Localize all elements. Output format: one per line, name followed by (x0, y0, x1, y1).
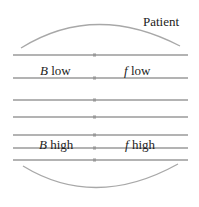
low-text: low (128, 63, 151, 78)
center-markers (93, 54, 96, 162)
b-high-label: B high (39, 138, 73, 151)
high-text: high (129, 137, 155, 152)
f-low-label: f low (124, 64, 150, 77)
f-high-label: f high (125, 138, 155, 151)
patient-label: Patient (143, 15, 179, 28)
diagram-canvas (0, 0, 199, 207)
high-text: high (47, 137, 73, 152)
low-text: low (48, 63, 71, 78)
b-variable: B (40, 63, 48, 78)
bottom-arc (23, 164, 178, 188)
b-low-label: B low (40, 64, 71, 77)
b-variable: B (39, 137, 47, 152)
